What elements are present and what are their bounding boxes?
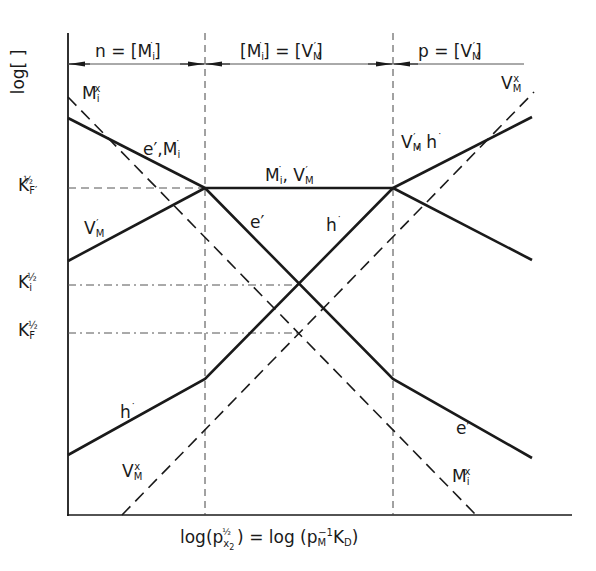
label-h-mid: h˙	[326, 216, 342, 234]
xlabel-D: D	[344, 537, 352, 548]
region-label-n: n = [Mi˙]	[95, 42, 161, 62]
ytick-KFprime: KF′½	[18, 176, 33, 196]
label-VM-h-base: V	[401, 132, 413, 152]
ytick-KFprime-sup: ½	[23, 175, 33, 186]
line-VMx-dashed	[122, 92, 534, 515]
xlabel-M: M	[318, 537, 327, 548]
label-h-left-sup: ˙	[131, 402, 136, 413]
label-VM-left-sup: ′	[96, 218, 98, 229]
ytick-Ki-sub: i	[29, 282, 32, 293]
xlabel-lhs: log(p	[180, 527, 223, 547]
region-n-prefix: n = [M	[95, 41, 152, 61]
label-VMx-top-sub: M	[513, 83, 522, 94]
label-Mix-top-sup: x	[94, 83, 100, 94]
label-VM-left-sub: M	[96, 228, 105, 239]
label-h-left: h˙	[120, 403, 136, 421]
label-Mix-top: Mix	[82, 84, 100, 104]
label-h-left-base: h	[120, 402, 131, 422]
label-VM-h-mid: , h	[416, 132, 438, 152]
label-VM-h: VM′, h˙	[401, 133, 442, 153]
line-Mi-right	[393, 188, 532, 260]
region-n-suffix: ]	[154, 41, 161, 61]
xlabel-rhs: ) = log (p	[237, 527, 317, 547]
label-e-Mi: e′,Mi˙	[143, 140, 180, 160]
label-e-mid: e′	[250, 214, 264, 231]
label-VM-left-base: V	[84, 218, 96, 238]
region-int-mid: ] = [V	[263, 41, 313, 61]
label-VMx-top-base: V	[501, 73, 513, 93]
region-label-intrinsic: [Mi˙] = [VM′]	[240, 42, 323, 62]
label-VMx-top-sup: x	[513, 73, 519, 84]
label-Mi-VM: Mi˙, VM′	[265, 166, 308, 186]
label-e-Mi-sup: ˙	[175, 139, 180, 150]
xlabel-K: K	[333, 527, 344, 547]
label-Mi-VM-sup2: ′	[306, 165, 308, 176]
label-Mix-bottom-sup: x	[464, 466, 470, 477]
line-Mix-dashed	[68, 97, 476, 515]
label-Mi-VM-sub2: M	[305, 175, 314, 186]
label-VM-left: VM′	[84, 219, 99, 239]
y-axis-label: log[ ]	[8, 42, 28, 102]
y-axis-label-text: log[ ]	[8, 50, 28, 95]
label-e-mid-base: e′	[250, 212, 264, 232]
line-e-Mi-left	[68, 118, 205, 188]
label-e-Mi-base: e′,M	[143, 139, 177, 159]
ytick-KFprime-sub: F′	[29, 185, 37, 196]
label-Mix-bottom-sub: i	[467, 476, 470, 487]
xlabel-sub: x2	[223, 538, 234, 549]
ytick-KF: KF½	[18, 321, 38, 341]
xlabel-minus1: −1	[318, 527, 333, 538]
label-VMx-bottom-sup: x	[134, 461, 140, 472]
label-VMx-bottom-base: V	[122, 461, 134, 481]
label-e-right: e′	[456, 420, 470, 437]
ytick-KF-sub: F	[29, 330, 35, 341]
label-VMx-top: VMx	[501, 74, 519, 94]
label-VMx-bottom: VMx	[122, 462, 140, 482]
x-axis-label: log(px2½) = log (pM−1KD)	[180, 527, 358, 552]
xlabel-sub-2: 2	[229, 543, 234, 552]
xlabel-sup: ½	[222, 527, 231, 537]
xlabel-close: )	[352, 527, 359, 547]
region-int-suffix: ]	[316, 41, 323, 61]
region-p-prefix: p = [V	[418, 41, 472, 61]
region-p-suffix: ]	[475, 41, 482, 61]
region-label-p: p = [VM′]	[418, 42, 482, 62]
label-h-mid-base: h	[326, 215, 337, 235]
label-e-right-base: e′	[456, 418, 470, 438]
ytick-Ki-sup: ½	[27, 272, 37, 283]
label-e-Mi-sub: i	[177, 149, 180, 160]
label-VMx-bottom-sub: M	[134, 471, 143, 482]
label-Mi-VM-mid: , V	[282, 165, 304, 185]
ytick-KF-sup: ½	[28, 320, 38, 331]
line-h-dot	[68, 188, 393, 455]
label-Mix-top-sub: i	[97, 93, 100, 104]
label-VM-h-sup2: ˙	[437, 132, 442, 143]
label-Mix-bottom: Mix	[452, 467, 470, 487]
label-h-mid-sup: ˙	[337, 215, 342, 226]
ytick-Ki: Ki½	[18, 273, 37, 293]
